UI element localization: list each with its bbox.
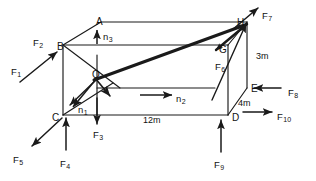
force-label-F2: F2	[33, 38, 43, 49]
vertex-label-C: C	[52, 113, 59, 123]
vertex-label-H: H	[237, 18, 244, 28]
diagonal-b-to-o	[63, 45, 120, 88]
dimension-label-height: 3m	[256, 52, 269, 61]
force-label-F5: F5	[13, 155, 23, 166]
force-label-F4: F4	[60, 159, 70, 170]
normal-label-n1: n1	[78, 105, 88, 116]
vertex-label-E: E	[251, 84, 258, 94]
force-label-F1: F1	[11, 67, 21, 78]
dimension-label-depth: 4m	[238, 99, 251, 108]
force-label-F9: F9	[214, 160, 224, 171]
f1-arrow	[20, 52, 57, 82]
force-label-F6: F6	[215, 62, 225, 73]
normal-label-n3: n3	[103, 32, 113, 43]
force-label-F7: F7	[262, 11, 272, 22]
vertex-label-O: O	[92, 70, 100, 80]
force-label-F10: F10	[277, 112, 291, 123]
dimension-label-length: 12m	[143, 116, 161, 125]
force-label-F8: F8	[288, 88, 298, 99]
force-label-F3: F3	[93, 130, 103, 141]
vertex-label-G: G	[219, 45, 227, 55]
block-diagram-svg	[0, 0, 316, 181]
vertex-label-A: A	[96, 17, 103, 27]
normal-label-n2: n2	[176, 94, 186, 105]
vertex-label-B: B	[57, 42, 64, 52]
thin-arrow-c-diagonal	[70, 79, 97, 105]
figure-canvas: A B C D E G H O 12m 4m 3m n1 n2 n3 F1 F2…	[0, 0, 316, 181]
vertex-label-D: D	[232, 113, 239, 123]
